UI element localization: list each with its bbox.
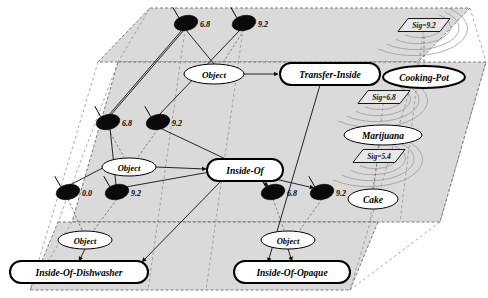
blob-value-label: 6.8 xyxy=(200,20,210,29)
node-n-transfer-inside[interactable]: Transfer-Inside xyxy=(280,63,380,85)
node-n-cooking-pot[interactable]: Cooking-Pot xyxy=(383,66,465,88)
node-n-inside-of-dishwasher[interactable]: Inside-Of-Dishwasher xyxy=(10,261,148,283)
node-n-marijuana[interactable]: Marijuana xyxy=(344,125,422,145)
guide-line xyxy=(470,8,486,62)
node-label: Inside-Of xyxy=(225,166,264,176)
blob-node[interactable] xyxy=(55,182,82,202)
node-n-cake[interactable]: Cake xyxy=(348,189,398,209)
node-label: Marijuana xyxy=(361,131,404,141)
node-label: Object xyxy=(74,236,97,246)
node-n-object-br[interactable]: Object xyxy=(261,231,315,249)
node-n-object-bl[interactable]: Object xyxy=(58,231,112,249)
node-label: Transfer-Inside xyxy=(299,70,361,80)
signal-label: Sig=5.4 xyxy=(367,152,391,161)
blob-value-label: 0.0 xyxy=(82,189,92,198)
blob-value-label: 9.2 xyxy=(131,189,141,198)
node-n-inside-of-opaque[interactable]: Inside-Of-Opaque xyxy=(234,261,350,283)
node-label: Object xyxy=(202,70,226,80)
node-label: Object xyxy=(277,236,300,246)
node-label: Object xyxy=(118,163,141,173)
node-label: Cooking-Pot xyxy=(399,73,449,83)
blob-value-label: 6.8 xyxy=(287,189,297,198)
figure-canvas: Sig=9.2Sig=6.8Sig=5.4 6.89.26.89.20.09.2… xyxy=(0,0,488,298)
node-n-object-mid[interactable]: Object xyxy=(102,158,156,176)
node-label: Inside-Of-Dishwasher xyxy=(34,268,122,278)
node-n-object-top[interactable]: Object xyxy=(184,64,244,84)
node-label: Cake xyxy=(363,195,384,205)
blob-value-label: 9.2 xyxy=(258,20,268,29)
diagram-svg: Sig=9.2Sig=6.8Sig=5.4 6.89.26.89.20.09.2… xyxy=(0,0,488,298)
blob-value-label: 6.8 xyxy=(122,119,132,128)
signal-label: Sig=9.2 xyxy=(412,21,436,30)
node-label: Inside-Of-Opaque xyxy=(255,268,328,278)
blob-value-label: 9.2 xyxy=(336,189,346,198)
blob-value-label: 9.2 xyxy=(172,119,182,128)
node-n-inside-of[interactable]: Inside-Of xyxy=(207,159,283,181)
blob-stem xyxy=(55,176,61,187)
signal-label: Sig=6.8 xyxy=(372,93,396,102)
top-plane xyxy=(98,8,470,62)
